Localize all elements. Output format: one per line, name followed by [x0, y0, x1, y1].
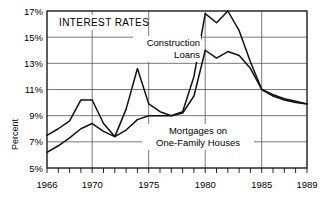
y-tick-17: 17% — [24, 6, 44, 17]
y-tick-9: 9% — [29, 110, 43, 121]
y-tick-11: 11% — [25, 84, 44, 95]
x-tick-1980: 1980 — [195, 179, 216, 190]
x-tick-1966: 1966 — [36, 179, 57, 190]
x-tick-1975: 1975 — [138, 179, 159, 190]
annotation-mortgages-line1: Mortgages on — [169, 125, 227, 136]
interest-rates-chart: 17%15%13%11%9%7%5%1966197019751980198519… — [0, 0, 326, 203]
x-tick-1970: 1970 — [82, 179, 103, 190]
y-tick-13: 13% — [24, 58, 44, 69]
chart-canvas: 17%15%13%11%9%7%5%1966197019751980198519… — [0, 0, 326, 203]
chart-title: INTEREST RATES — [59, 17, 149, 28]
x-tick-1985: 1985 — [251, 179, 272, 190]
x-tick-1989: 1989 — [296, 179, 317, 190]
x-minor-ticks — [47, 168, 307, 173]
y-tick-5: 5% — [29, 163, 43, 174]
y-tick-15: 15% — [24, 32, 44, 43]
annotation-construction-loans-line1: Construction — [147, 37, 200, 48]
y-tick-7: 7% — [29, 136, 43, 147]
annotation-mortgages-line2: One-Family Houses — [156, 137, 240, 148]
annotation-construction-loans-line2: Loans — [174, 49, 200, 60]
y-axis-title: Percent — [10, 118, 20, 150]
